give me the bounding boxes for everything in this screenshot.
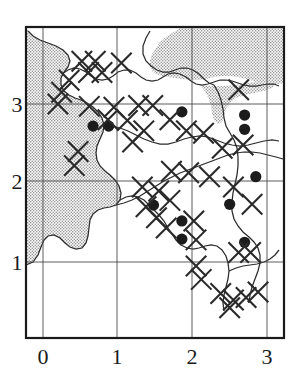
- ytick-label-2: 2: [12, 169, 23, 194]
- map-canvas: 0 1 2 3 3 2 1: [0, 0, 295, 380]
- record-dot: [239, 109, 250, 120]
- xtick-label-3: 3: [262, 344, 273, 369]
- record-dot: [239, 124, 250, 135]
- xtick-label-2: 2: [187, 344, 198, 369]
- ytick-label-1: 1: [12, 250, 23, 275]
- record-dot: [176, 215, 187, 226]
- ytick-label-3: 3: [12, 92, 23, 117]
- record-dot: [87, 121, 98, 132]
- record-dot: [224, 199, 235, 210]
- distribution-map-figure: 0 1 2 3 3 2 1: [0, 0, 295, 380]
- record-dot: [176, 233, 187, 244]
- xtick-label-1: 1: [112, 344, 123, 369]
- record-dot: [250, 171, 261, 182]
- xtick-label-0: 0: [38, 344, 49, 369]
